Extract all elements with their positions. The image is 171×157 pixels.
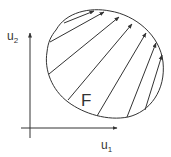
x-axis-label: u1 <box>101 138 113 154</box>
diagram-canvas: u2 u1 F <box>0 0 171 157</box>
y-axis-label: u2 <box>7 29 19 45</box>
arrow-4 <box>68 24 132 100</box>
region-label: F <box>81 91 91 110</box>
arrow-6 <box>127 43 156 117</box>
direction-arrows <box>49 11 162 117</box>
coordinate-axes <box>21 33 117 138</box>
arrow-5 <box>97 33 146 116</box>
